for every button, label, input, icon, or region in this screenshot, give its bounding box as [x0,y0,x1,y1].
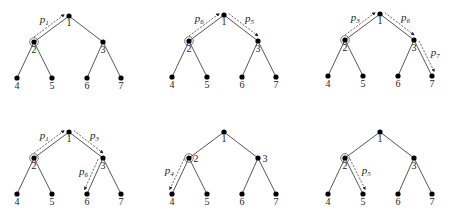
tree-edge [172,158,189,194]
node-label: 1 [67,133,72,144]
node-label: 4 [15,196,20,207]
tree-edge [189,41,207,77]
path-label: p1 [39,129,49,143]
tree-edge [34,42,52,78]
path-label: p6 [194,12,205,26]
tree-edge [345,132,380,158]
node-label: 1 [222,16,227,27]
node-label: 4 [326,196,331,207]
tree-edge [345,158,363,194]
tree-edge [414,40,432,76]
tree-edge [380,132,414,158]
node-label: 1 [378,15,383,26]
node-label: 5 [50,196,55,207]
node-label: 1 [378,133,383,144]
node-label: 6 [240,196,245,207]
node-label: 5 [361,78,366,89]
node-label: 7 [119,196,124,207]
path-arrow [345,13,375,35]
node-label: 3 [412,160,417,171]
node-label: 7 [119,80,124,91]
node-label: 3 [256,43,261,54]
tree-2: p6p51234567 [169,12,278,90]
tree-edge [69,16,103,42]
path-arrow [189,14,219,36]
tree-edge [103,42,121,78]
node-label: 4 [15,80,20,91]
node-label: 1 [67,17,72,28]
node-label: 4 [170,196,175,207]
path-label: p3 [89,129,100,143]
tree-3: p3p6p71234567 [325,11,440,89]
node-label: 5 [205,196,210,207]
node-label: 7 [430,196,435,207]
node-label: 7 [430,78,435,89]
path-label: p4 [164,164,175,178]
path-label: p5 [244,12,255,26]
node-label: 6 [396,196,401,207]
node-label: 1 [222,133,227,144]
node-label: 6 [85,80,90,91]
node-label: 3 [412,42,417,53]
node-label: 6 [396,78,401,89]
path-label: p3 [350,11,361,25]
node-label: 2 [32,160,37,171]
node-label: 2 [32,44,37,55]
path-label: p5 [361,164,372,178]
tree-edge [224,132,258,158]
node-label: 3 [101,160,106,171]
node-label: 5 [50,80,55,91]
path-label: p1 [39,13,49,27]
tree-edge [414,158,432,194]
node-label: 3 [101,44,106,55]
tree-edge [345,40,363,76]
node-label: 2 [194,153,199,164]
node-label: 5 [361,196,366,207]
path-label: p6 [78,165,89,179]
tree-edge [242,158,258,194]
node-label: 3 [263,153,268,164]
tree-edge [103,158,121,194]
path-label: p7 [430,46,441,60]
tree-1: p11234567 [14,13,123,91]
path-label: p6 [400,11,411,25]
tree-6: p51234567 [325,129,434,207]
tree-node [255,155,260,160]
tree-4: p1p3p61234567 [14,129,123,207]
node-label: 6 [85,196,90,207]
node-label: 5 [205,79,210,90]
tree-edge [258,41,276,77]
node-label: 2 [343,160,348,171]
tree-node [186,155,191,160]
node-label: 4 [170,79,175,90]
node-label: 2 [187,43,192,54]
node-label: 7 [274,79,279,90]
node-label: 7 [274,196,279,207]
node-label: 2 [343,42,348,53]
node-label: 6 [240,79,245,90]
tree-edge [34,158,52,194]
diagram-canvas: p11234567p6p51234567p3p6p71234567p1p3p61… [0,0,451,211]
path-arrow [34,131,64,153]
tree-5: p41234567 [164,129,279,207]
node-label: 4 [326,78,331,89]
path-arrow [34,15,64,37]
